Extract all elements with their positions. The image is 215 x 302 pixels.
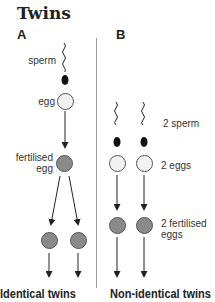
arrow-split-left (51, 176, 60, 224)
diagram-graphics (0, 0, 215, 302)
arrow-split-right (69, 176, 78, 224)
sperm-b1-icon (114, 102, 121, 147)
sperm-icon (62, 43, 69, 85)
sperm-b2-icon (141, 102, 148, 147)
